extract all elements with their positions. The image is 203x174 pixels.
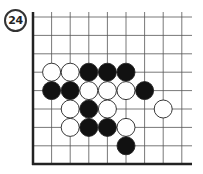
go-board xyxy=(0,0,203,174)
black-stone xyxy=(61,82,79,100)
black-stone xyxy=(80,100,98,118)
white-stone xyxy=(154,100,172,118)
black-stone xyxy=(117,137,135,155)
black-stone xyxy=(80,118,98,136)
black-stone xyxy=(43,82,61,100)
white-stone xyxy=(43,63,61,81)
white-stone xyxy=(98,82,116,100)
white-stone xyxy=(61,63,79,81)
white-stone xyxy=(98,100,116,118)
white-stone xyxy=(117,82,135,100)
white-stone xyxy=(61,118,79,136)
black-stone xyxy=(98,118,116,136)
white-stone xyxy=(61,100,79,118)
white-stone xyxy=(117,118,135,136)
black-stone xyxy=(117,63,135,81)
white-stone xyxy=(80,82,98,100)
black-stone xyxy=(80,63,98,81)
black-stone xyxy=(136,82,154,100)
black-stone xyxy=(98,63,116,81)
